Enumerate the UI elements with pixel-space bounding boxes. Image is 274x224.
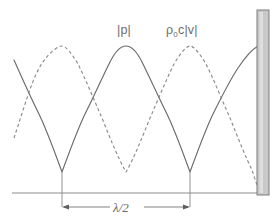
dimension-arrow-right [183, 205, 190, 210]
pressure-label: |p| [117, 23, 131, 37]
dimension-arrow-left [62, 205, 69, 210]
rigid-wall-highlight [260, 12, 264, 193]
pressure-envelope-curve [14, 46, 258, 172]
half-wavelength-label: λ/2 [112, 200, 129, 215]
velocity-label: ρ0c|v| [166, 23, 198, 39]
velocity-envelope-curve [14, 46, 258, 188]
figure-canvas: |p| ρ0c|v| λ/2 [0, 0, 274, 224]
velocity-label-rho: ρ [166, 23, 173, 37]
velocity-label-rest: c|v| [178, 23, 198, 37]
standing-wave-figure: |p| ρ0c|v| λ/2 [0, 0, 274, 224]
